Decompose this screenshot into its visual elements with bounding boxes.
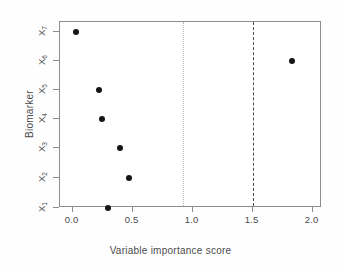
threshold-dashed	[253, 22, 254, 206]
y-axis-tick-label: X5	[36, 79, 47, 99]
data-point	[105, 205, 111, 211]
y-axis-title: Biomarker	[24, 90, 35, 138]
y-axis-tick	[53, 207, 59, 208]
x-axis-title: Variable importance score	[0, 245, 341, 256]
x-axis-tick	[132, 207, 133, 212]
x-axis-tick	[192, 207, 193, 212]
threshold-dotted	[183, 22, 184, 206]
y-axis-tick-label: X7	[36, 21, 47, 41]
plot-panel	[59, 21, 321, 207]
x-axis-tick	[312, 207, 313, 212]
y-axis-tick-label: X6	[36, 50, 47, 70]
y-axis-tick-label: X3	[36, 137, 47, 157]
data-point	[289, 58, 295, 64]
x-axis-tick-label: 0.5	[125, 214, 139, 225]
data-point	[117, 145, 123, 151]
y-axis-tick-label: X4	[36, 108, 47, 128]
x-axis-tick-label: 2.0	[305, 214, 319, 225]
x-axis-tick	[252, 207, 253, 212]
data-point	[73, 29, 79, 35]
x-axis-tick-label: 1.5	[245, 214, 259, 225]
y-axis-tick-label: X2	[36, 167, 47, 187]
variable-importance-plot: Biomarker X1X2X3X4X5X6X7 Variable import…	[0, 0, 341, 269]
x-axis-tick-label: 1.0	[185, 214, 199, 225]
y-axis-tick-label: X1	[36, 197, 47, 217]
x-axis-tick	[72, 207, 73, 212]
data-point	[126, 175, 132, 181]
data-point	[96, 87, 102, 93]
data-point	[99, 116, 105, 122]
x-axis-tick-label: 0.0	[65, 214, 79, 225]
